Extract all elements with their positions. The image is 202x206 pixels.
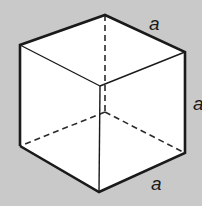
label-bottom-edge: a [151,173,162,194]
label-right-edge: a [193,93,202,114]
label-top-edge: a [149,13,160,34]
cube-diagram: a a a [0,0,202,206]
cube-svg: a a a [0,0,202,206]
edge-front-vertical [99,86,100,192]
